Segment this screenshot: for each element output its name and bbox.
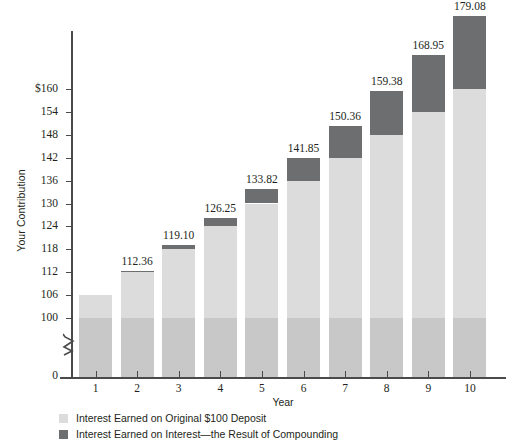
bar-segment-compounding	[204, 218, 237, 227]
bar-segment-compounding	[370, 91, 403, 134]
x-axis-tick-label-8: 8	[367, 382, 407, 394]
x-axis-tick-label-9: 9	[408, 382, 448, 394]
bar-year-7	[329, 0, 362, 377]
y-axis-tick-label: 106	[12, 289, 58, 301]
bar-segment-compounding	[121, 271, 154, 273]
bar-segment-principal	[329, 318, 362, 377]
bar-value-label-year-3: 119.10	[149, 229, 209, 241]
bar-segment-original-deposit	[329, 158, 362, 318]
bar-segment-original-deposit	[204, 226, 237, 318]
bar-segment-original-deposit	[412, 112, 445, 318]
bar-year-1	[79, 0, 112, 377]
y-axis-tick	[66, 295, 73, 296]
y-axis-tick	[66, 318, 73, 319]
x-axis-tick	[96, 371, 97, 378]
bar-value-label-year-5: 133.82	[232, 173, 292, 185]
bar-segment-principal	[79, 318, 112, 377]
bar-value-label-year-8: 159.38	[357, 75, 417, 87]
x-axis-tick	[304, 371, 305, 378]
y-axis-tick-label: 130	[12, 198, 58, 210]
y-axis-tick	[66, 249, 73, 250]
legend-swatch-dark	[59, 430, 68, 439]
x-axis-tick-label-1: 1	[76, 382, 116, 394]
bar-value-label-year-7: 150.36	[315, 110, 375, 122]
x-axis-tick-label-4: 4	[200, 382, 240, 394]
y-axis-tick-label: 112	[12, 266, 58, 278]
x-axis-tick	[220, 371, 221, 378]
bar-year-10	[453, 0, 486, 377]
y-axis-tick	[66, 204, 73, 205]
bar-segment-original-deposit	[370, 135, 403, 318]
bar-segment-compounding	[287, 158, 320, 180]
x-axis-title: Year	[60, 397, 506, 408]
y-axis-tick	[66, 135, 73, 136]
y-axis-tick-label: 154	[12, 106, 58, 118]
y-axis-tick-label: 100	[12, 312, 58, 324]
y-axis-line	[71, 31, 73, 378]
bar-segment-compounding	[412, 55, 445, 112]
bar-segment-principal	[287, 318, 320, 377]
x-axis-tick	[428, 371, 429, 378]
y-axis-tick	[66, 272, 73, 273]
x-axis-tick-label-7: 7	[325, 382, 365, 394]
bar-value-label-year-6: 141.85	[274, 142, 334, 154]
bar-year-3	[162, 0, 195, 377]
bar-year-9	[412, 0, 445, 377]
bar-segment-compounding	[245, 189, 278, 204]
legend-label-compounding: Interest Earned on Interest—the Result o…	[76, 427, 338, 441]
y-axis-tick-label: 124	[12, 220, 58, 232]
y-axis-tick	[66, 89, 73, 90]
x-axis-tick	[179, 371, 180, 378]
bar-segment-original-deposit	[453, 89, 486, 318]
bar-year-5	[245, 0, 278, 377]
y-axis-tick-label: 118	[12, 243, 58, 255]
y-axis-tick	[66, 181, 73, 182]
legend-swatch-light	[59, 414, 68, 423]
x-axis-tick	[262, 371, 263, 378]
y-axis-tick-label: 0	[8, 370, 58, 382]
bar-value-label-year-9: 168.95	[398, 39, 458, 51]
y-axis-tick-label: 148	[12, 129, 58, 141]
bar-year-4	[204, 0, 237, 377]
y-axis-tick-label: $160	[12, 83, 58, 95]
y-axis-tick	[66, 226, 73, 227]
x-axis-line	[60, 377, 506, 379]
bar-segment-compounding	[453, 16, 486, 89]
bar-value-label-year-4: 126.25	[190, 202, 250, 214]
bar-segment-principal	[412, 318, 445, 377]
bar-segment-principal	[245, 318, 278, 377]
legend-label-original-deposit: Interest Earned on Original $100 Deposit	[76, 411, 266, 425]
bar-segment-principal	[204, 318, 237, 377]
x-axis-tick	[345, 371, 346, 378]
x-axis-tick	[470, 371, 471, 378]
x-axis-tick-label-5: 5	[242, 382, 282, 394]
bar-segment-original-deposit	[121, 272, 154, 318]
bar-value-label-year-10: 179.08	[440, 0, 500, 12]
bar-segment-original-deposit	[287, 181, 320, 318]
bar-segment-compounding	[329, 126, 362, 158]
bar-year-2	[121, 0, 154, 377]
x-axis-tick-label-6: 6	[284, 382, 324, 394]
x-axis-tick-label-2: 2	[117, 382, 157, 394]
x-axis-tick-label-3: 3	[159, 382, 199, 394]
x-axis-tick	[137, 371, 138, 378]
bar-segment-original-deposit	[162, 249, 195, 318]
bar-value-label-year-2: 112.36	[107, 255, 167, 267]
compound-interest-chart: Your Contribution 0100106112118124130136…	[0, 0, 516, 441]
bar-segment-principal	[453, 318, 486, 377]
x-axis-tick-label-10: 10	[450, 382, 490, 394]
bar-segment-original-deposit	[79, 295, 112, 318]
bar-segment-principal	[121, 318, 154, 377]
bar-year-8	[370, 0, 403, 377]
bar-segment-principal	[162, 318, 195, 377]
y-axis-tick-label: 136	[12, 175, 58, 187]
x-axis-tick	[387, 371, 388, 378]
bar-segment-compounding	[162, 245, 195, 249]
bar-segment-original-deposit	[245, 204, 278, 319]
bar-year-6	[287, 0, 320, 377]
y-axis-tick	[66, 112, 73, 113]
y-axis-tick-label: 142	[12, 152, 58, 164]
bar-segment-principal	[370, 318, 403, 377]
y-axis-tick	[66, 158, 73, 159]
